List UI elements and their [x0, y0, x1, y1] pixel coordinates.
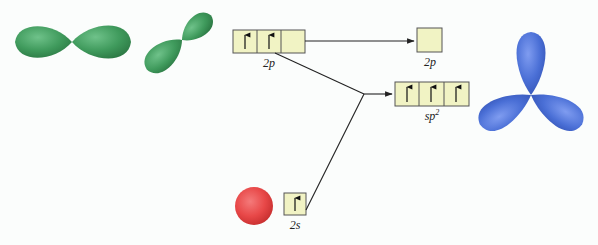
label-2p-left: 2p	[249, 56, 289, 71]
connector-lines	[275, 41, 414, 210]
label-sp2-superscript: 2	[435, 108, 439, 117]
orbital-diagram	[0, 0, 598, 245]
label-2s: 2s	[275, 218, 315, 233]
p-orbital-tilted-icon	[139, 6, 220, 80]
label-sp2: sp2	[412, 108, 452, 124]
2p-orbital-boxes	[233, 30, 305, 53]
label-sp2-base: sp	[425, 109, 436, 123]
sp2-hybrid-orbitals-icon	[473, 32, 590, 137]
s-orbital-icon	[235, 187, 273, 225]
label-2p-right: 2p	[410, 55, 450, 70]
p-orbital-horizontal-icon	[15, 25, 131, 58]
2s-orbital-box	[284, 193, 306, 215]
sp2-orbital-boxes	[395, 82, 469, 106]
2p-empty-box	[417, 28, 442, 52]
